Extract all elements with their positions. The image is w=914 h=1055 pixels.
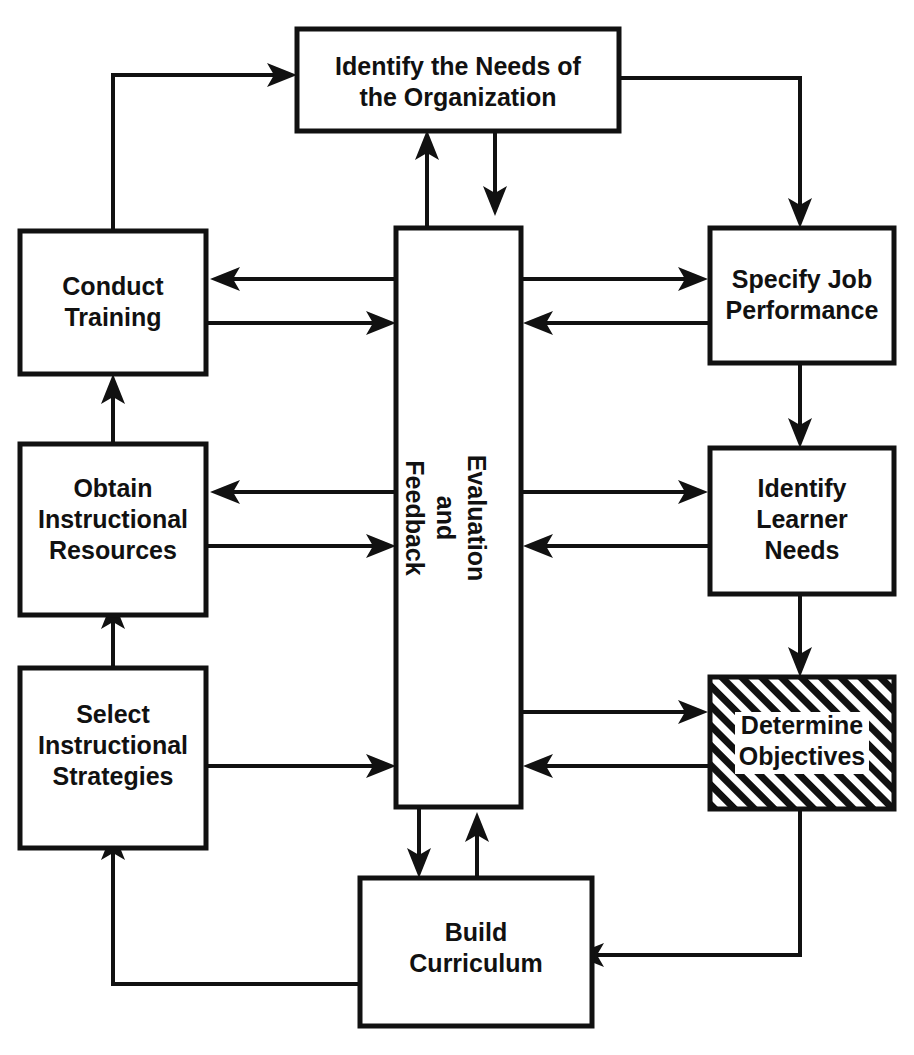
flowchart-canvas: Identify the Needs of the Organization C… (0, 0, 914, 1055)
node-label-line: Determine (741, 711, 863, 739)
node-label-line: Conduct (62, 272, 164, 300)
node-label-line: Needs (764, 536, 839, 564)
edge-evaluation-to-determine-objectives (521, 700, 708, 724)
edge-identify-needs-to-evaluation (483, 131, 507, 216)
node-label-line: Evaluation (463, 455, 491, 581)
edge-evaluation-to-identify-learner (521, 480, 708, 504)
node-specify-job-performance[interactable]: Specify Job Performance (710, 228, 894, 363)
node-label-line: Training (64, 303, 161, 331)
node-label-line: Resources (49, 536, 177, 564)
node-select-instructional-strategies[interactable]: Select Instructional Strategies (20, 668, 206, 848)
edge-evaluation-to-identify-needs (415, 130, 439, 230)
node-label-line: Build (445, 918, 508, 946)
edge-build-curriculum-to-evaluation (465, 812, 489, 880)
node-evaluation-and-feedback[interactable]: Evaluation and Feedback (396, 228, 521, 807)
node-label-line: Performance (726, 296, 879, 324)
edge-determine-objectives-to-evaluation (523, 754, 710, 778)
node-label-line: Strategies (53, 762, 174, 790)
node-determine-objectives[interactable]: Determine Objectives (710, 677, 894, 809)
node-label-line: Learner (756, 505, 848, 533)
node-build-curriculum[interactable]: Build Curriculum (360, 878, 592, 1026)
node-label-line: Instructional (38, 505, 188, 533)
edge-build-curriculum-to-select-strategies (101, 830, 360, 984)
node-identify-learner-needs[interactable]: Identify Learner Needs (710, 448, 894, 594)
node-obtain-instructional-resources[interactable]: Obtain Instructional Resources (20, 444, 206, 615)
edge-identify-needs-to-specify-job (619, 78, 812, 228)
edge-specify-job-to-identify-learner (788, 363, 812, 448)
node-conduct-training[interactable]: Conduct Training (20, 231, 206, 374)
node-label-line: Identify the Needs of (335, 52, 582, 80)
node-label-line: Curriculum (409, 949, 542, 977)
edge-identify-learner-to-evaluation (523, 534, 710, 558)
node-label-line: Feedback (401, 460, 429, 575)
instructional-design-flowchart: Identify the Needs of the Organization C… (0, 0, 914, 1055)
node-label-line: Select (76, 700, 150, 728)
edge-conduct-training-to-evaluation (206, 311, 396, 335)
edge-obtain-resources-to-conduct-training (101, 374, 125, 444)
edge-determine-objectives-to-build-curriculum (574, 809, 800, 967)
node-label-line: Specify Job (732, 265, 872, 293)
edge-select-strategies-to-evaluation (206, 754, 396, 778)
node-label-line: Instructional (38, 731, 188, 759)
edge-identify-learner-to-determine-objectives (788, 594, 812, 677)
node-label-line: the Organization (359, 83, 556, 111)
edge-conduct-training-to-identify-needs (113, 63, 297, 231)
node-label-line: Identify (758, 474, 847, 502)
node-label-line: Objectives (739, 742, 865, 770)
edge-evaluation-to-specify-job (521, 267, 708, 291)
edge-evaluation-to-conduct-training (210, 267, 396, 291)
edge-evaluation-to-obtain-resources (210, 480, 396, 504)
edge-obtain-resources-to-evaluation (206, 534, 396, 558)
node-label-line: and (432, 496, 460, 540)
node-label-line: Obtain (73, 474, 152, 502)
edge-specify-job-to-evaluation (523, 311, 710, 335)
node-identify-needs-organization[interactable]: Identify the Needs of the Organization (297, 29, 619, 131)
edge-evaluation-to-build-curriculum (407, 807, 431, 878)
